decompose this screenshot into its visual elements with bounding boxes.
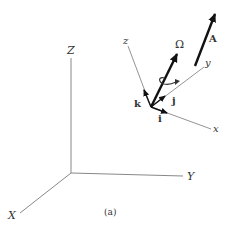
x-label: x (213, 123, 219, 134)
Y-label: Y (187, 170, 196, 183)
rotation-arrow-icon (160, 78, 176, 85)
X-axis (20, 173, 71, 213)
X-label: X (7, 209, 17, 222)
k-unit-vector (144, 90, 151, 107)
Z-label: Z (66, 44, 75, 57)
A-label: A (208, 33, 217, 44)
rotation-arrowhead-icon (175, 79, 180, 85)
k-label: k (134, 98, 142, 109)
Y-axis (71, 173, 183, 176)
z-label: z (122, 35, 129, 46)
i-label: i (158, 113, 162, 124)
y-label: y (204, 57, 211, 68)
diagram-canvas: Z X Y z y x k j i Ω A (a) (0, 0, 230, 232)
figure-caption: (a) (104, 207, 116, 217)
j-label: j (171, 95, 176, 106)
omega-label: Ω (175, 38, 184, 51)
